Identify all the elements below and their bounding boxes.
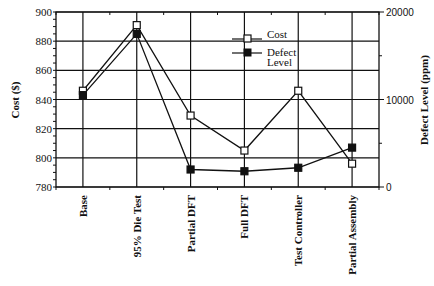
left-tick-label: 880 [36,35,53,47]
category-label: Test Controller [292,195,304,266]
legend: Cost Defect Level [232,28,296,68]
defect-marker-icon [79,92,86,99]
legend-cost-label: Cost [267,28,287,40]
left-tick-label: 900 [36,6,53,18]
legend-defect-label-2: Level [267,56,292,68]
cost-marker-icon [295,87,302,94]
category-label: Partial Assembly [346,195,358,275]
defect-marker-icon [187,166,194,173]
defect-marker-icon [295,164,302,171]
cost-marker-icon [187,112,194,119]
left-tick-label: 820 [36,123,53,135]
right-tick-label: 0 [386,182,392,193]
category-label: Base [77,195,89,217]
line-chart: 780800820840860880900 01000020000 Base95… [0,0,434,286]
legend-defect-marker-icon [244,49,251,56]
left-tick-label: 800 [36,152,53,164]
left-axis-title: Cost ($) [9,81,22,118]
defect-marker-icon [349,144,356,151]
cost-marker-icon [241,147,248,154]
right-tick-label: 10000 [386,95,414,106]
category-label: Full DFT [238,194,250,238]
gridlines [56,12,379,187]
right-axis: 01000020000 [379,7,414,193]
series-lines [79,22,355,175]
defect-marker-icon [241,168,248,175]
legend-cost-marker-icon [244,35,251,42]
left-tick-label: 780 [36,181,53,193]
left-tick-label: 860 [36,64,53,76]
series-line [83,34,352,171]
cost-marker-icon [349,160,356,167]
series-line [83,25,352,164]
right-tick-label: 20000 [386,7,414,18]
left-tick-label: 840 [36,94,53,106]
defect-marker-icon [133,30,140,37]
right-axis-title: Defect Level (ppm) [418,55,431,145]
category-label: Partial DFT [185,194,197,252]
x-axis: Base95% Die TestPartial DFTFull DFTTest … [56,12,379,275]
category-label: 95% Die Test [131,195,143,258]
cost-marker-icon [133,22,140,29]
left-axis: 780800820840860880900 [36,6,57,193]
